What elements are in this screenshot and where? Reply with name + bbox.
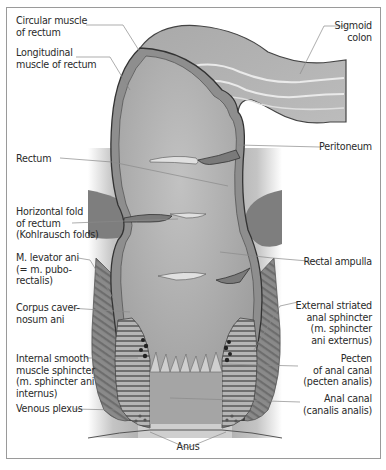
label-peritoneum: Peritoneum [319,141,372,153]
label-levator-ani: M. levator ani (= m. pubo- rectalis) [16,252,79,287]
label-rectum: Rectum [16,153,51,165]
label-anus: Anus [168,441,208,453]
label-rectal-ampulla: Rectal ampulla [303,256,372,268]
label-internal-sphincter: Internal smooth muscle sphincter (m. sph… [16,353,95,399]
label-longitudinal-muscle: Longitudinal muscle of rectum [16,47,97,70]
label-sigmoid-colon: Sigmoid colon [335,20,372,43]
label-venous-plexus: Venous plexus [16,403,82,415]
label-anal-canal: Anal canal (canalis analis) [303,393,372,416]
label-external-sphincter: External striated anal sphincter (m. sph… [296,300,372,346]
label-circular-muscle: Circular muscle of rectum [16,15,87,38]
label-pecten: Pecten of anal canal (pecten analis) [303,353,372,388]
label-horizontal-fold: Horizontal fold of rectum (Kohlrausch fo… [16,206,99,241]
label-corpus-cavernosum: Corpus caver- nosum ani [16,302,80,325]
